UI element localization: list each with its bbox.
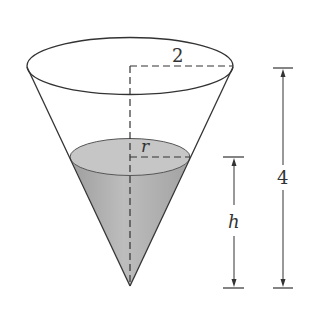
arrow-up-icon <box>232 158 237 166</box>
arrow-down-icon <box>232 279 237 287</box>
arrow-down-icon <box>281 279 286 287</box>
cone-diagram: 2 r h 4 <box>0 0 312 315</box>
label-liquid-height: h <box>228 211 240 232</box>
cone-drawing: 2 r h 4 <box>0 0 312 315</box>
label-total-height: 4 <box>277 167 288 188</box>
label-liquid-radius: r <box>141 136 150 156</box>
arrow-up-icon <box>281 69 286 77</box>
label-top-radius: 2 <box>172 45 183 66</box>
